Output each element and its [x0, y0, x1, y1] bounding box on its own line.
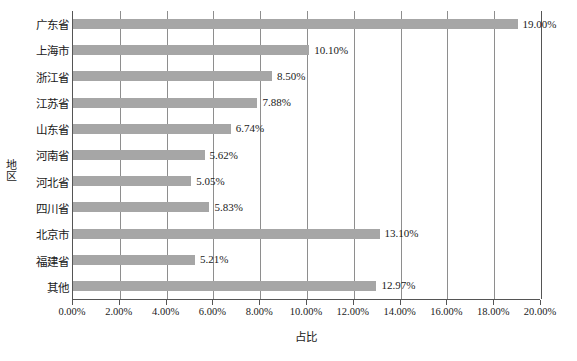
x-tick-label: 14.00% — [383, 306, 415, 317]
plot-area: 19.00%10.10%8.50%7.88%6.74%5.62%5.05%5.8… — [72, 11, 540, 300]
bar-value-label: 19.00% — [523, 19, 557, 30]
bar-row: 10.10% — [73, 37, 540, 63]
bar-row: 5.62% — [73, 142, 540, 168]
tick-mark — [72, 300, 73, 305]
tick-mark — [400, 300, 401, 305]
bar-value-label: 10.10% — [314, 45, 348, 56]
tick-mark — [353, 300, 354, 305]
gridline — [541, 11, 542, 299]
bar-value-label: 5.83% — [214, 202, 242, 213]
category-label: 浙江省 — [18, 64, 72, 90]
x-tick-label: 20.00% — [524, 306, 556, 317]
bar — [73, 281, 376, 291]
bar-row: 6.74% — [73, 116, 540, 142]
tick-mark — [446, 300, 447, 305]
x-axis-title: 占比 — [72, 328, 540, 344]
category-label: 山东省 — [18, 116, 72, 142]
tick-mark — [306, 300, 307, 305]
bar-value-label: 7.88% — [262, 97, 290, 108]
tick-mark — [259, 300, 260, 305]
bar-chart: 地区 广东省上海市浙江省江苏省山东省河南省河北省四川省北京市福建省其他 19.0… — [0, 0, 577, 361]
bar — [73, 202, 209, 212]
bar-row: 8.50% — [73, 63, 540, 89]
tick-mark — [540, 300, 541, 305]
bar — [73, 229, 380, 239]
category-label: 四川省 — [18, 195, 72, 221]
x-tick-label: 4.00% — [152, 306, 179, 317]
bar — [73, 19, 518, 29]
bar-row: 7.88% — [73, 90, 540, 116]
category-label: 其他 — [18, 274, 72, 300]
bar — [73, 71, 272, 81]
category-axis-labels: 广东省上海市浙江省江苏省山东省河南省河北省四川省北京市福建省其他 — [18, 11, 72, 300]
bar-value-label: 5.05% — [196, 176, 224, 187]
category-label: 河南省 — [18, 142, 72, 168]
bar-row: 12.97% — [73, 273, 540, 299]
category-label: 福建省 — [18, 247, 72, 273]
bar-row: 5.05% — [73, 168, 540, 194]
bar — [73, 45, 309, 55]
category-label: 广东省 — [18, 11, 72, 37]
bar-series: 19.00%10.10%8.50%7.88%6.74%5.62%5.05%5.8… — [73, 11, 540, 299]
bar — [73, 176, 191, 186]
bar — [73, 150, 205, 160]
tick-mark — [212, 300, 213, 305]
x-tick-label: 12.00% — [337, 306, 369, 317]
bar — [73, 255, 195, 265]
x-tick-label: 2.00% — [105, 306, 132, 317]
bar-row: 13.10% — [73, 221, 540, 247]
bar-row: 19.00% — [73, 11, 540, 37]
bar-value-label: 6.74% — [236, 123, 264, 134]
bar-row: 5.21% — [73, 247, 540, 273]
tick-mark — [166, 300, 167, 305]
x-axis-ticks: 0.00%2.00%4.00%6.00%8.00%10.00%12.00%14.… — [72, 300, 540, 306]
bar-value-label: 8.50% — [277, 71, 305, 82]
category-label: 江苏省 — [18, 90, 72, 116]
category-label: 河北省 — [18, 169, 72, 195]
x-tick-label: 8.00% — [246, 306, 273, 317]
x-tick-label: 16.00% — [430, 306, 462, 317]
tick-mark — [493, 300, 494, 305]
bar-value-label: 5.62% — [210, 150, 238, 161]
bar-row: 5.83% — [73, 194, 540, 220]
x-tick-label: 18.00% — [477, 306, 509, 317]
category-label: 北京市 — [18, 221, 72, 247]
x-tick-label: 10.00% — [290, 306, 322, 317]
x-tick-label: 0.00% — [58, 306, 85, 317]
bar-value-label: 12.97% — [381, 280, 415, 291]
bar-value-label: 13.10% — [385, 228, 419, 239]
bar — [73, 98, 257, 108]
bar — [73, 124, 231, 134]
x-tick-label: 6.00% — [199, 306, 226, 317]
tick-mark — [119, 300, 120, 305]
bar-value-label: 5.21% — [200, 254, 228, 265]
category-label: 上海市 — [18, 37, 72, 63]
